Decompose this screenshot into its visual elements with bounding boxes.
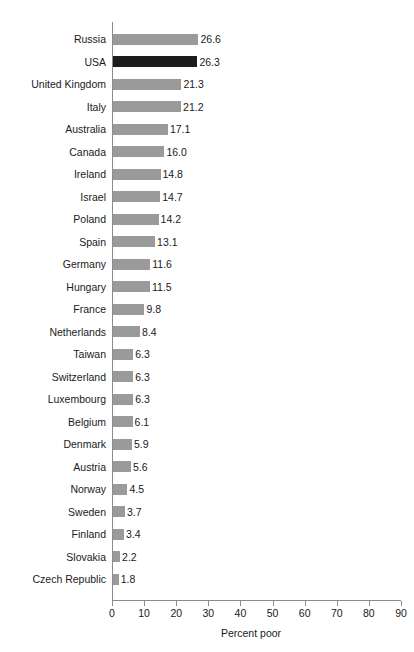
bar-value-label: 3.4: [124, 526, 141, 542]
x-axis-tick: [305, 601, 306, 606]
bar: [113, 551, 120, 562]
category-label: Ireland: [0, 166, 106, 182]
bar-row: Netherlands8.4: [0, 324, 414, 340]
bar: [113, 191, 160, 202]
x-axis-tick: [273, 601, 274, 606]
bar: [113, 259, 150, 270]
x-axis-tick-label: 20: [170, 607, 182, 619]
category-label: Netherlands: [0, 324, 106, 340]
category-label: Slovakia: [0, 549, 106, 565]
bar-row: Hungary11.5: [0, 279, 414, 295]
bar-row: Germany11.6: [0, 256, 414, 272]
category-label: Finland: [0, 526, 106, 542]
bar-row: Austria5.6: [0, 459, 414, 475]
category-label: Russia: [0, 31, 106, 47]
bar-row: Spain13.1: [0, 234, 414, 250]
bar: [113, 146, 164, 157]
category-label: United Kingdom: [0, 76, 106, 92]
category-label: Taiwan: [0, 346, 106, 362]
bar: [113, 101, 181, 112]
bar-row: France9.8: [0, 301, 414, 317]
bar-value-label: 26.6: [198, 31, 220, 47]
bar-value-label: 11.5: [150, 279, 172, 295]
bar: [113, 461, 131, 472]
bar-value-label: 14.7: [160, 189, 182, 205]
category-label: France: [0, 301, 106, 317]
category-label: Denmark: [0, 436, 106, 452]
bar-value-label: 5.9: [132, 436, 149, 452]
category-label: Sweden: [0, 504, 106, 520]
x-axis-tick: [208, 601, 209, 606]
x-axis-title: Percent poor: [0, 627, 414, 640]
category-label: Austria: [0, 459, 106, 475]
bar-row: Czech Republic1.8: [0, 571, 414, 587]
bar: [113, 416, 133, 427]
bar-value-label: 4.5: [127, 481, 144, 497]
bar-value-label: 13.1: [155, 234, 177, 250]
category-label: Poland: [0, 211, 106, 227]
bar-value-label: 6.3: [133, 346, 150, 362]
x-axis-tick: [144, 601, 145, 606]
bar-value-label: 14.2: [159, 211, 181, 227]
x-axis-tick-label: 80: [363, 607, 375, 619]
bar-value-label: 21.3: [181, 76, 203, 92]
bar-row: Canada16.0: [0, 144, 414, 160]
bar-row: Luxembourg6.3: [0, 391, 414, 407]
bar-value-label: 17.1: [168, 121, 190, 137]
bar-value-label: 11.6: [150, 256, 172, 272]
category-label: Spain: [0, 234, 106, 250]
bar-value-label: 16.0: [164, 144, 186, 160]
bar-value-label: 6.1: [133, 414, 150, 430]
x-axis-tick: [112, 601, 113, 606]
bar: [113, 506, 125, 517]
x-axis-tick-label: 40: [235, 607, 247, 619]
x-axis-tick-label: 0: [109, 607, 115, 619]
bar-row: Ireland14.8: [0, 166, 414, 182]
x-axis-tick: [369, 601, 370, 606]
category-label: Norway: [0, 481, 106, 497]
bar-value-label: 3.7: [125, 504, 142, 520]
bar-chart: 0102030405060708090 Russia26.6USA26.3Uni…: [0, 0, 414, 652]
category-label: Czech Republic: [0, 571, 106, 587]
x-axis-tick-label: 30: [202, 607, 214, 619]
bar: [113, 529, 124, 540]
category-label: Germany: [0, 256, 106, 272]
bar: [113, 56, 197, 67]
bar-row: Australia17.1: [0, 121, 414, 137]
bar-value-label: 1.8: [119, 571, 136, 587]
bar: [113, 34, 198, 45]
bar-row: United Kingdom21.3: [0, 76, 414, 92]
bar-value-label: 6.3: [133, 391, 150, 407]
bar: [113, 304, 144, 315]
bar-row: Taiwan6.3: [0, 346, 414, 362]
plot-area: 0102030405060708090 Russia26.6USA26.3Uni…: [0, 0, 414, 652]
bar: [113, 169, 161, 180]
bar-row: Sweden3.7: [0, 504, 414, 520]
bar-row: USA26.3: [0, 54, 414, 70]
x-axis-tick: [401, 601, 402, 606]
bar: [113, 349, 133, 360]
bar: [113, 281, 150, 292]
x-axis-line: [112, 600, 401, 601]
category-label: Israel: [0, 189, 106, 205]
bar-value-label: 14.8: [161, 166, 183, 182]
x-axis-tick-label: 90: [395, 607, 407, 619]
bar-value-label: 5.6: [131, 459, 148, 475]
bar-value-label: 21.2: [181, 99, 203, 115]
category-label: Luxembourg: [0, 391, 106, 407]
x-axis-tick-label: 60: [299, 607, 311, 619]
x-axis-tick-label: 10: [138, 607, 150, 619]
bar: [113, 214, 159, 225]
bar-value-label: 6.3: [133, 369, 150, 385]
category-label: Hungary: [0, 279, 106, 295]
x-axis-tick-label: 70: [331, 607, 343, 619]
category-label: Switzerland: [0, 369, 106, 385]
bar-value-label: 8.4: [140, 324, 157, 340]
bar-row: Israel14.7: [0, 189, 414, 205]
bar-row: Denmark5.9: [0, 436, 414, 452]
x-axis-title-text: Percent poor: [221, 627, 281, 640]
bar: [113, 79, 181, 90]
category-label: Canada: [0, 144, 106, 160]
bar-value-label: 9.8: [144, 301, 161, 317]
bar-row: Norway4.5: [0, 481, 414, 497]
